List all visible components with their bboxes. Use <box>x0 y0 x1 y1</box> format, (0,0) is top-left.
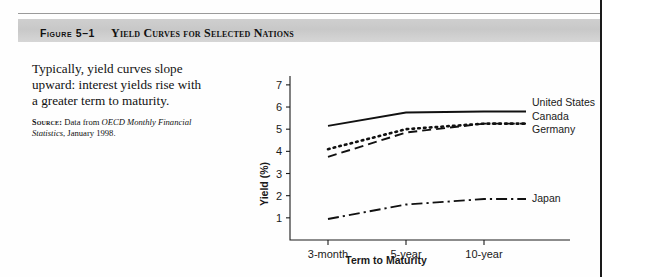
caption-body: Typically, yield curves slope upward: in… <box>32 61 207 110</box>
series-label-united-states: United States <box>532 96 595 108</box>
yield-curve-chart: 1234567 3-month5-year10-year United Stat… <box>258 72 588 268</box>
y-tick-label: 7 <box>276 79 282 91</box>
x-tick-label: 10-year <box>465 248 503 260</box>
series-label-germany: Germany <box>532 123 576 135</box>
page-margin <box>602 0 646 277</box>
series-label-canada: Canada <box>532 110 569 122</box>
y-tick-label: 3 <box>276 168 282 180</box>
series-line-japan <box>328 199 526 219</box>
chart-series-labels: United StatesGermanyCanadaJapan <box>532 96 595 204</box>
page-edge-line <box>600 0 602 277</box>
source-text-after: , January 1998. <box>63 128 116 138</box>
y-tick-label: 2 <box>276 190 282 202</box>
chart-ticks <box>286 85 484 245</box>
series-line-germany <box>328 124 526 149</box>
y-tick-label: 6 <box>276 101 282 113</box>
source-text-before: Data from <box>64 117 101 127</box>
source-label: Source: <box>32 118 62 127</box>
series-label-japan: Japan <box>532 192 561 204</box>
x-tick-label: 3-month <box>308 248 348 260</box>
chart-axes <box>290 76 570 240</box>
y-tick-labels: 1234567 <box>276 79 282 224</box>
top-divider-rule <box>18 13 600 14</box>
figure-title: Yield Curves for Selected Nations <box>111 26 294 40</box>
figure-number: Figure 5–1 <box>40 27 95 39</box>
chart-svg: 1234567 3-month5-year10-year United Stat… <box>258 72 588 268</box>
y-axis-title: Yield (%) <box>258 162 270 206</box>
chart-series-lines <box>328 111 526 218</box>
figure-header-text: Figure 5–1Yield Curves for Selected Nati… <box>40 23 294 41</box>
caption-block: Typically, yield curves slope upward: in… <box>32 61 207 139</box>
y-tick-label: 5 <box>276 123 282 135</box>
y-tick-label: 4 <box>276 145 282 157</box>
figure-page: Figure 5–1Yield Curves for Selected Nati… <box>0 0 646 277</box>
y-tick-label: 1 <box>276 212 282 224</box>
x-axis-title: Term to Maturity <box>345 254 427 266</box>
source-note: Source: Data from OECD Monthly Financial… <box>32 117 207 140</box>
